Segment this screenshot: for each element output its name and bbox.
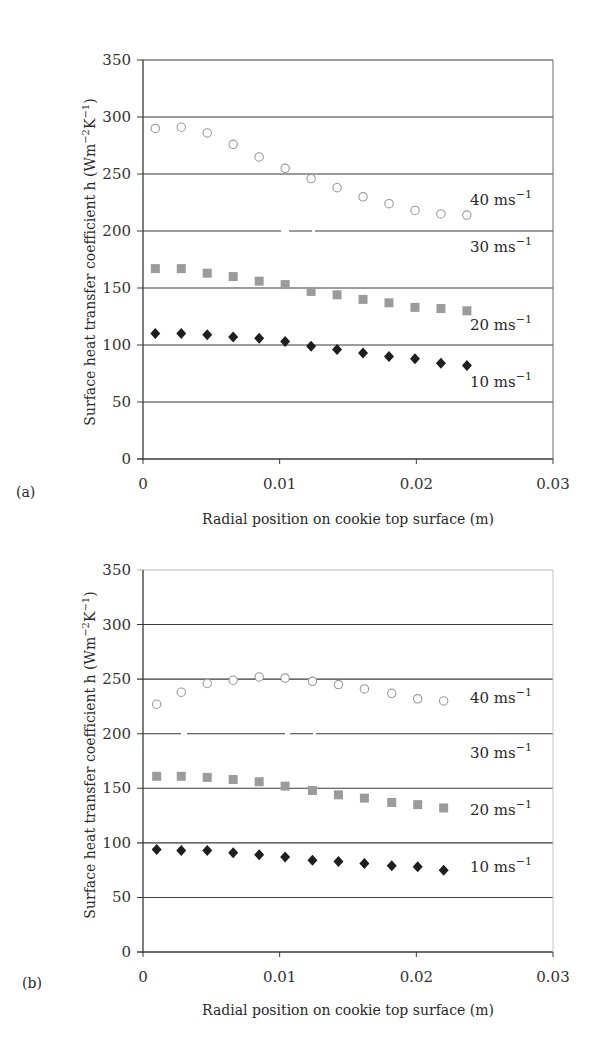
x-axis-title: Radial position on cookie top surface (m… (202, 1002, 494, 1018)
data-point-20 (385, 298, 394, 307)
data-markers (150, 123, 472, 371)
y-axis-ticks: 050100150200250300350 (102, 51, 131, 468)
data-point-10 (410, 353, 420, 364)
y-tick-label: 50 (112, 888, 131, 906)
x-axis-ticks: 00.010.020.03 (138, 952, 569, 986)
data-point-20 (229, 775, 238, 784)
series-label: 40 ms−1 (470, 188, 532, 209)
data-point-20 (410, 303, 419, 312)
data-point-20 (334, 790, 343, 799)
data-point-40 (414, 695, 422, 703)
y-tick-label: 100 (102, 336, 131, 354)
data-point-20 (307, 287, 316, 296)
chart-panel-a: 050100150200250300350 00.010.020.03 40 m… (16, 51, 570, 527)
y-tick-label: 300 (102, 108, 131, 126)
data-point-10 (280, 852, 290, 863)
series-label: 20 ms−1 (470, 798, 532, 819)
data-point-40 (333, 183, 341, 191)
series-label: 30 ms−1 (470, 741, 532, 762)
data-point-40 (334, 680, 342, 688)
data-point-10 (439, 865, 449, 876)
data-point-40 (439, 697, 447, 705)
data-point-40 (255, 673, 263, 681)
data-point-40 (152, 700, 160, 708)
data-point-20 (436, 304, 445, 313)
data-point-10 (307, 855, 317, 866)
data-point-30 (285, 732, 290, 736)
data-point-10 (176, 328, 186, 339)
data-point-10 (462, 360, 472, 371)
series-label: 20 ms−1 (470, 313, 532, 334)
y-tick-label: 300 (102, 616, 131, 634)
data-point-40 (229, 140, 237, 148)
y-tick-label: 150 (102, 779, 131, 797)
data-point-10 (202, 329, 212, 340)
data-point-10 (254, 333, 264, 344)
data-point-10 (150, 328, 160, 339)
y-tick-label: 100 (102, 834, 131, 852)
data-point-40 (203, 679, 211, 687)
data-point-30 (313, 732, 316, 736)
data-point-20 (255, 277, 264, 286)
data-point-20 (229, 272, 238, 281)
chart-panel-b: 050100150200250300350 00.010.020.03 40 m… (22, 561, 570, 1018)
data-point-20 (177, 772, 186, 781)
y-axis-title: Surface heat transfer coefficient h (Wm−… (80, 591, 98, 918)
data-point-20 (308, 786, 317, 795)
data-point-10 (306, 341, 316, 352)
y-tick-label: 350 (102, 51, 131, 69)
data-point-40 (437, 210, 445, 218)
data-markers (152, 673, 449, 876)
y-axis-title: Surface heat transfer coefficient h (Wm−… (80, 98, 98, 425)
data-point-10 (333, 856, 343, 867)
data-point-10 (387, 860, 397, 871)
data-point-20 (359, 295, 368, 304)
data-point-20 (203, 269, 212, 278)
series-label: 10 ms−1 (470, 855, 532, 876)
y-tick-label: 200 (102, 222, 131, 240)
data-point-40 (281, 674, 289, 682)
x-tick-label: 0.03 (536, 968, 569, 986)
data-point-40 (255, 153, 263, 161)
data-point-10 (228, 332, 238, 343)
data-point-20 (333, 290, 342, 299)
y-tick-label: 250 (102, 670, 131, 688)
x-tick-label: 0 (138, 968, 148, 986)
data-point-20 (203, 773, 212, 782)
data-point-40 (307, 174, 315, 182)
y-tick-label: 150 (102, 279, 131, 297)
data-point-10 (359, 858, 369, 869)
data-point-40 (360, 685, 368, 693)
y-tick-label: 200 (102, 725, 131, 743)
data-point-40 (388, 689, 396, 697)
y-tick-label: 250 (102, 165, 131, 183)
data-point-20 (255, 777, 264, 786)
data-point-40 (359, 193, 367, 201)
data-point-20 (281, 782, 290, 791)
series-label: 10 ms−1 (470, 370, 532, 391)
data-point-40 (308, 677, 316, 685)
panel-label: (b) (22, 975, 42, 991)
data-point-40 (151, 124, 159, 132)
panel-label: (a) (16, 484, 35, 500)
data-point-40 (463, 211, 471, 219)
x-axis-title: Radial position on cookie top surface (m… (202, 511, 494, 527)
data-point-20 (413, 800, 422, 809)
series-labels: 40 ms−130 ms−120 ms−110 ms−1 (470, 188, 532, 391)
data-point-30 (181, 732, 187, 736)
x-axis-ticks: 00.010.020.03 (138, 459, 569, 493)
series-label: 40 ms−1 (470, 686, 532, 707)
data-point-40 (385, 199, 393, 207)
data-point-10 (384, 351, 394, 362)
data-point-20 (281, 280, 290, 289)
data-point-10 (332, 344, 342, 355)
y-axis-ticks: 050100150200250300350 (102, 561, 131, 961)
data-point-20 (439, 803, 448, 812)
data-point-30 (281, 229, 289, 233)
data-point-20 (177, 264, 186, 273)
data-point-20 (152, 772, 161, 781)
data-point-10 (358, 347, 368, 358)
data-point-10 (202, 845, 212, 856)
x-tick-label: 0.03 (536, 475, 569, 493)
data-point-40 (177, 688, 185, 696)
